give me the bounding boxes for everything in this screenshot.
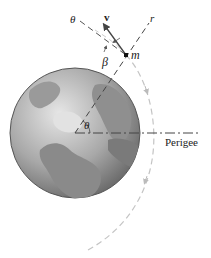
mass-point — [124, 53, 128, 57]
theta-direction-label: θ — [70, 13, 76, 25]
orbit-diagram: θ v r m β θ Perigee — [0, 0, 211, 258]
velocity-label: v — [104, 11, 110, 23]
radial-label: r — [150, 12, 155, 24]
beta-label: β — [101, 55, 108, 69]
theta-angle-label: θ — [84, 119, 90, 131]
velocity-vector-arrow-icon — [105, 26, 126, 55]
earth-globe — [10, 68, 140, 200]
theta-direction-line — [80, 21, 126, 55]
beta-arrow-icon — [104, 47, 106, 52]
perigee-label: Perigee — [165, 136, 198, 148]
mass-label: m — [131, 48, 140, 62]
